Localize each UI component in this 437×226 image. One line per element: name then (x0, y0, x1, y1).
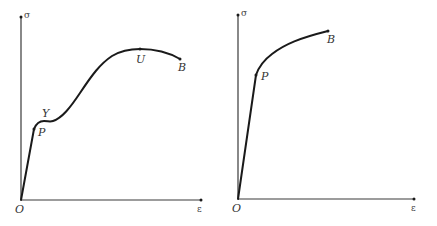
right-origin-label: O (232, 203, 241, 214)
right-sigma-axis-arrow (237, 14, 240, 17)
left-epsilon-label: ε (197, 205, 202, 214)
diagram-canvas: σ ε O P Y U B σ ε O P B (0, 0, 437, 226)
right-epsilon-axis-arrow (413, 198, 416, 201)
left-label-b: B (178, 62, 186, 73)
left-label-y: Y (42, 108, 49, 119)
right-point-p (255, 74, 258, 77)
right-epsilon-label: ε (411, 204, 416, 213)
left-sigma-label: σ (24, 11, 30, 20)
left-label-u: U (136, 54, 145, 65)
left-stress-strain-curve (21, 49, 180, 200)
right-label-b: B (327, 34, 335, 45)
right-sigma-label: σ (241, 9, 247, 18)
right-stress-strain-curve (238, 31, 328, 199)
left-point-u (139, 48, 142, 51)
right-figure (237, 14, 416, 201)
stress-strain-diagrams (0, 0, 437, 226)
left-label-p: P (38, 127, 45, 138)
left-sigma-axis-arrow (20, 16, 23, 19)
left-origin-label: O (15, 204, 24, 215)
right-label-p: P (261, 71, 268, 82)
left-point-p (33, 128, 36, 131)
left-epsilon-axis-arrow (200, 199, 203, 202)
